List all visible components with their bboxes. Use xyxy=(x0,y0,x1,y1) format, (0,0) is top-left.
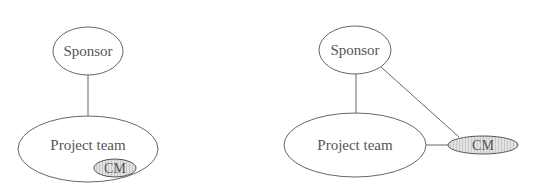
project-team-node: Project team xyxy=(18,116,158,182)
sponsor-node: Sponsor xyxy=(53,27,123,75)
project-team-label: Project team xyxy=(50,137,126,153)
cm-label: CM xyxy=(104,161,126,176)
sponsor-label: Sponsor xyxy=(63,43,112,59)
cm-node: CM xyxy=(448,136,518,154)
left-diagram: Sponsor Project team CM xyxy=(18,27,158,182)
project-team-label: Project team xyxy=(317,137,393,153)
diagram-canvas: Sponsor Project team CM Sponsor Project … xyxy=(0,0,537,188)
cm-node: CM xyxy=(94,159,136,177)
right-diagram: Sponsor Project team CM xyxy=(284,26,518,177)
sponsor-label: Sponsor xyxy=(330,42,379,58)
project-team-node: Project team xyxy=(284,113,426,177)
cm-label: CM xyxy=(472,138,494,153)
sponsor-node: Sponsor xyxy=(319,26,391,74)
